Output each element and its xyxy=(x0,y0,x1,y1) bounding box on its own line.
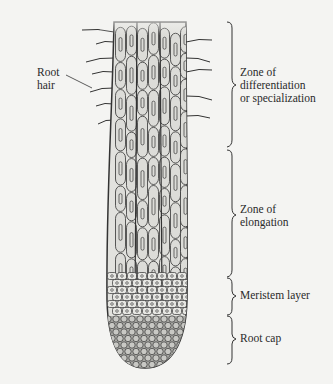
root-cap-cell xyxy=(173,335,179,341)
label-meristem-text: Meristem layer xyxy=(240,289,310,302)
root-cap-cell xyxy=(137,329,143,335)
brace-meristem xyxy=(227,278,236,315)
elongated-cell xyxy=(171,164,181,202)
root-cap-cell xyxy=(125,335,131,341)
meristem-cell xyxy=(138,287,147,294)
root-hair xyxy=(96,41,114,44)
meristem-cell xyxy=(158,273,167,280)
label-differentiation-line3: or specialization xyxy=(240,92,316,105)
root-cap-cell xyxy=(117,361,123,367)
root-cap-cell xyxy=(109,361,115,367)
root-cap-cell xyxy=(161,316,167,322)
root-cap-cell xyxy=(141,348,147,354)
root-cap-cell xyxy=(177,329,183,335)
meristem-cell xyxy=(133,280,142,287)
elongated-cell xyxy=(149,186,159,228)
root-cap-cell xyxy=(141,322,147,328)
meristem-cell xyxy=(113,294,122,301)
root-cap-cell xyxy=(117,335,123,341)
label-differentiation-line2: differentiation xyxy=(240,79,316,92)
meristem-cell xyxy=(153,280,162,287)
root-cap-cell xyxy=(165,361,171,367)
root-cap-cell xyxy=(113,316,119,322)
meristem-cell xyxy=(128,287,137,294)
elongated-cell xyxy=(149,157,159,184)
root-cap-cell xyxy=(109,335,115,341)
meristem-cell xyxy=(148,273,157,280)
elongated-cell xyxy=(149,55,159,89)
root-cap-cell xyxy=(153,316,159,322)
root-cap-cell xyxy=(125,322,131,328)
elongated-cell xyxy=(171,33,181,65)
elongated-cell xyxy=(181,112,191,148)
root-cap-cell xyxy=(137,342,143,348)
elongated-cell xyxy=(116,212,126,252)
meristem-cell xyxy=(128,273,137,280)
root-cap-cell xyxy=(149,348,155,354)
root-cap-cell xyxy=(177,316,183,322)
elongated-cell xyxy=(138,228,148,260)
meristem-cell xyxy=(158,301,167,308)
label-differentiation-line1: Zone of xyxy=(240,66,316,79)
root-cap-cell xyxy=(165,322,171,328)
meristem-cell xyxy=(173,294,182,301)
meristem-cell xyxy=(183,280,192,287)
root-cap-cell xyxy=(169,342,175,348)
root-cap-cell xyxy=(181,348,187,354)
root-cap-cell xyxy=(133,348,139,354)
root-cap-cell xyxy=(181,361,187,367)
label-zone-differentiation: Zone of differentiation or specializatio… xyxy=(240,66,316,105)
meristem-cell xyxy=(173,280,182,287)
elongated-cell xyxy=(138,62,148,89)
root-cap-cell xyxy=(145,316,151,322)
meristem-cell xyxy=(123,294,132,301)
brace-elongation xyxy=(227,150,236,277)
root-hair xyxy=(186,115,210,118)
elongated-cell xyxy=(181,149,191,185)
label-root-cap-text: Root cap xyxy=(240,332,281,345)
meristem-cell xyxy=(148,301,157,308)
elongated-cell xyxy=(181,186,191,227)
meristem-cell xyxy=(133,308,142,315)
elongated-cell xyxy=(127,95,137,131)
root-cap-cell xyxy=(133,322,139,328)
root-cap-cell xyxy=(133,335,139,341)
root-cap-cell xyxy=(145,342,151,348)
root-cap-cell xyxy=(129,316,135,322)
meristem-cell xyxy=(148,287,157,294)
root-cap-cell xyxy=(125,348,131,354)
elongated-cell xyxy=(127,193,137,221)
elongated-cell xyxy=(138,90,148,115)
label-meristem-layer: Meristem layer xyxy=(240,289,310,302)
meristem-cell xyxy=(113,280,122,287)
meristem-cell xyxy=(113,308,122,315)
elongated-cell xyxy=(149,90,159,126)
meristem-cell xyxy=(163,294,172,301)
root-body xyxy=(100,10,200,376)
label-root-cap: Root cap xyxy=(240,332,281,345)
root-hair xyxy=(86,58,114,62)
root-cap-cell xyxy=(105,342,111,348)
meristem-cell xyxy=(168,273,177,280)
meristem-cell xyxy=(128,301,137,308)
elongated-cell xyxy=(127,159,137,192)
meristem-cell xyxy=(123,280,132,287)
root-cap-cell xyxy=(161,342,167,348)
root-cap-cell xyxy=(161,329,167,335)
root-cap-cell xyxy=(121,316,127,322)
root-hair xyxy=(186,58,210,62)
meristem-cell xyxy=(168,287,177,294)
root-hair xyxy=(186,96,212,100)
root-cap-cell xyxy=(149,322,155,328)
elongated-cell xyxy=(138,158,148,199)
root-cap-cell xyxy=(157,348,163,354)
root-cap-cell xyxy=(153,329,159,335)
root-hair xyxy=(186,69,212,72)
meristem-cell xyxy=(138,273,147,280)
meristem-cell xyxy=(108,301,117,308)
root-cap-cell xyxy=(165,335,171,341)
root-cap-cell xyxy=(169,329,175,335)
label-elongation-line2: elongation xyxy=(240,216,289,229)
label-root-hair: Root hair xyxy=(37,66,59,92)
root-cap-cell xyxy=(165,348,171,354)
